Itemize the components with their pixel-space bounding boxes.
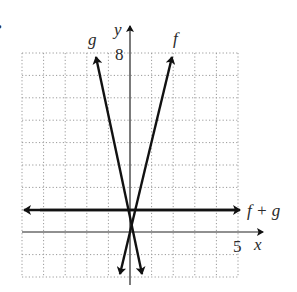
line-f-down	[120, 165, 146, 274]
label-f: f	[173, 29, 180, 48]
label-y-axis: y	[112, 20, 122, 39]
label-x-axis: x	[253, 235, 262, 254]
label-g: g	[88, 30, 97, 49]
label-y-tick-8: 8	[115, 45, 124, 64]
line-f-up	[146, 57, 172, 165]
line-g-up	[96, 57, 119, 165]
graph-figure: • g y 8 f f + g 5 x	[0, 0, 297, 292]
marker-dot: •	[0, 20, 2, 35]
label-x-tick-5: 5	[233, 237, 242, 256]
label-f-plus-g: f + g	[247, 201, 280, 220]
